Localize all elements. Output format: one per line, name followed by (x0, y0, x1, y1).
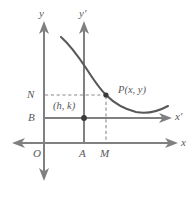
foot-m-label: M (100, 148, 109, 159)
figure-container: y y′ x x′ O A M N B (h, k) P(x, y) (0, 0, 196, 197)
x-axis-label: x (181, 137, 186, 148)
point-p-dot (103, 92, 108, 97)
y-prime-axis-label: y′ (79, 8, 86, 19)
point-p-label: P(x, y) (118, 85, 146, 96)
x-prime-axis-label: x′ (175, 111, 182, 122)
y-axis-label: y (39, 8, 44, 19)
n-label: N (27, 89, 34, 100)
point-hk-dot (81, 115, 87, 121)
b-label: B (28, 112, 35, 123)
foot-a-label: A (79, 148, 86, 159)
function-curve (61, 37, 168, 113)
new-origin-coords-label: (h, k) (53, 101, 75, 112)
origin-label: O (33, 148, 41, 159)
